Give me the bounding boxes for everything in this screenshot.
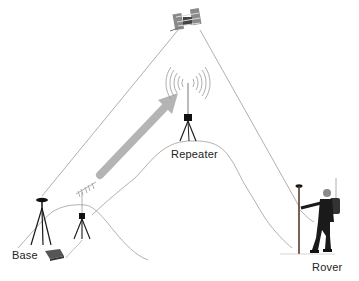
surveyor-person-icon — [301, 178, 340, 253]
tripod-icon — [31, 208, 51, 245]
radio-box-icon — [45, 249, 64, 261]
satellite-to-rover-line — [200, 30, 300, 208]
signal-lines — [42, 30, 300, 208]
base-label: Base — [12, 249, 38, 261]
tripod-icon — [74, 219, 90, 239]
repeater-label: Repeater — [171, 148, 218, 160]
diagram-canvas — [0, 0, 359, 281]
base-station — [31, 198, 51, 245]
satellite-icon — [170, 8, 201, 31]
rover-label: Rover — [312, 261, 342, 273]
gnss-pole-icon — [296, 184, 303, 254]
terrain — [18, 141, 314, 260]
tripod-icon — [180, 114, 196, 141]
radio-link-arrow — [100, 93, 178, 175]
rover-station — [280, 178, 340, 254]
rover-slope — [300, 210, 314, 222]
radio-station — [66, 182, 96, 258]
gnss-rtk-diagram: Base Repeater Rover — [0, 0, 359, 281]
gnss-antenna-icon — [36, 198, 48, 202]
yagi-antenna-icon — [76, 182, 96, 214]
